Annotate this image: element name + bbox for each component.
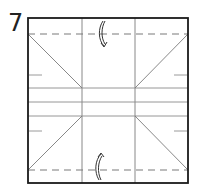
diagonal-crease-top-left	[28, 34, 82, 88]
origami-diagram	[0, 0, 201, 193]
paper-outline	[28, 18, 188, 183]
diagonal-crease-bottom-left	[28, 116, 82, 170]
diagonal-crease-top-right	[135, 34, 188, 88]
bottom-fold-arrow-icon	[96, 153, 104, 180]
diagonal-crease-bottom-right	[135, 116, 188, 170]
